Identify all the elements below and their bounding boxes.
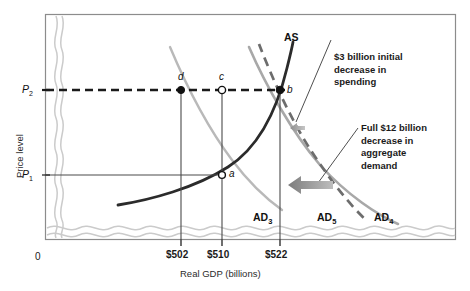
leader-line-initial-decrease [296, 40, 331, 122]
curve-label-ad4: AD4 [374, 211, 393, 226]
annotation-initial-decrease: $3 billion initial decrease in spending [334, 51, 459, 89]
point-label-c: c [219, 71, 224, 82]
curve-label-as: AS [284, 31, 299, 43]
annotation-full-line-3: aggregate [361, 147, 470, 160]
y-axis-title: Price level [14, 134, 25, 178]
x-axis-title: Real GDP (billions) [180, 268, 261, 279]
leader-line-full-decrease [318, 128, 358, 183]
point-d [177, 86, 184, 93]
annotation-full-line-4: demand [361, 160, 470, 173]
point-label-b: b [287, 84, 293, 95]
xtick-label-522: $522 [265, 249, 287, 260]
point-label-d: d [178, 71, 184, 82]
annotation-initial-line-1: $3 billion initial [334, 51, 459, 64]
annotation-initial-line-2: decrease in [334, 64, 459, 77]
point-label-a: a [229, 168, 235, 179]
xtick-label-510: $510 [207, 249, 229, 260]
ylabel-p2: P2 [22, 83, 33, 97]
annotation-full-line-1: Full $12 billion [361, 122, 470, 135]
origin-label: 0 [35, 251, 41, 262]
y-axis-break-squiggle-2 [61, 16, 64, 238]
annotation-full-decrease: Full $12 billion decrease in aggregate d… [361, 122, 470, 172]
point-a [219, 172, 226, 179]
xtick-label-502: $502 [166, 249, 188, 260]
curve-label-ad3: AD3 [253, 211, 272, 226]
large-shift-arrow [288, 176, 333, 194]
annotation-initial-line-3: spending [334, 76, 459, 89]
curve-label-ad5: AD5 [317, 211, 336, 226]
x-axis-break-squiggle-2 [47, 233, 455, 237]
annotation-full-line-2: decrease in [361, 135, 470, 148]
x-axis-break-squiggle [47, 226, 455, 230]
point-b [276, 86, 284, 94]
point-c [218, 86, 225, 93]
chart-figure: P2 P1 Price level 0 $502 $510 $522 Real … [0, 0, 470, 291]
small-shift-arrow [290, 123, 305, 133]
y-axis-break-squiggle [55, 16, 58, 238]
